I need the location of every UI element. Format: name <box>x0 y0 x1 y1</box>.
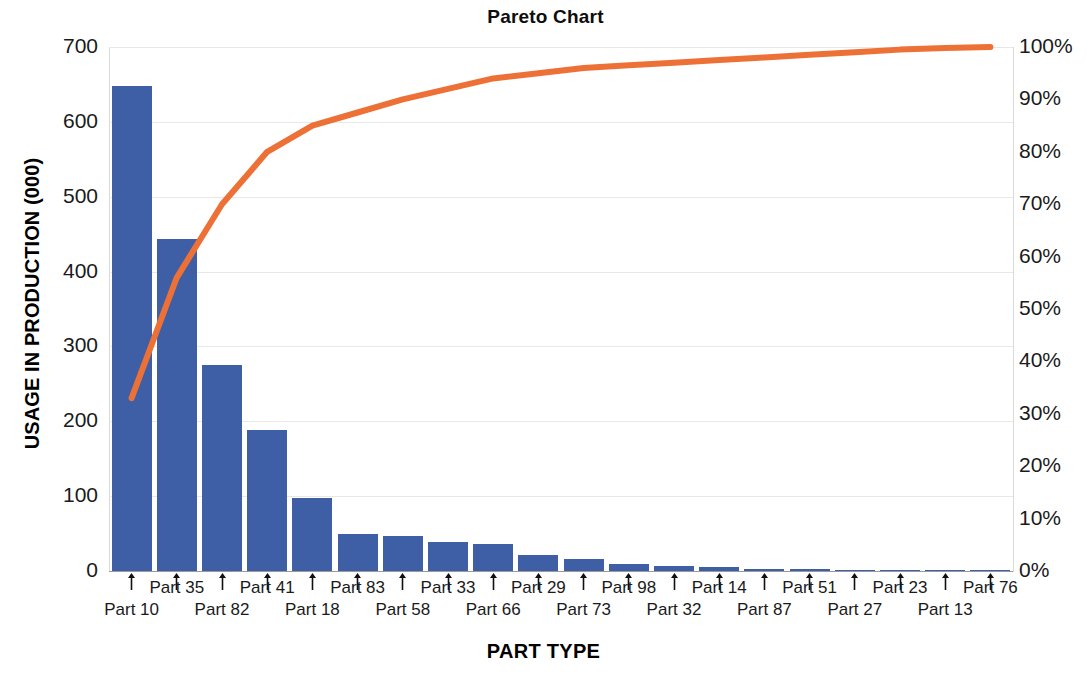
chart-title-text: Pareto Chart <box>487 6 603 27</box>
y-axis-right-tick-label: 100% <box>1019 34 1087 58</box>
y-axis-right-tick-label: 40% <box>1019 348 1087 372</box>
y-axis-left-tick-label: 400 <box>8 259 98 283</box>
y-axis-left-tick-label: 700 <box>8 34 98 58</box>
x-axis-category-label: Part 13 <box>903 600 987 620</box>
y-axis-right-tick-label: 50% <box>1019 296 1087 320</box>
y-axis-right-tick-label: 70% <box>1019 191 1087 215</box>
y-axis-left-tick-label: 100 <box>8 483 98 507</box>
y-axis-right-tick-label: 90% <box>1019 86 1087 110</box>
y-axis-left-tick-label: 500 <box>8 184 98 208</box>
cumulative-line <box>132 47 991 398</box>
y-axis-right-tick-label: 80% <box>1019 139 1087 163</box>
y-axis-right-tick-label: 30% <box>1019 401 1087 425</box>
x-axis-category-label: Part 18 <box>270 600 354 620</box>
x-axis-category-label: Part 27 <box>813 600 897 620</box>
cumulative-line-series <box>109 47 1013 571</box>
x-axis-category-label: Part 83 <box>316 578 400 598</box>
y-axis-right-spine <box>1013 47 1014 572</box>
x-axis-category-label: Part 98 <box>587 578 671 598</box>
chart-title: Pareto Chart <box>0 6 1087 28</box>
x-axis-line <box>109 571 1013 572</box>
x-axis-title: PART TYPE <box>0 640 1087 663</box>
y-axis-left-tick-label: 0 <box>8 558 98 582</box>
x-axis-category-label: Part 33 <box>406 578 490 598</box>
x-axis-category-label: Part 23 <box>858 578 942 598</box>
x-axis-category-label: Part 82 <box>180 600 264 620</box>
x-axis-category-label: Part 51 <box>768 578 852 598</box>
y-axis-right-tick-label: 20% <box>1019 453 1087 477</box>
x-axis-category-label: Part 32 <box>632 600 716 620</box>
y-axis-right-tick-label: 60% <box>1019 244 1087 268</box>
plot-area <box>109 47 1013 571</box>
x-axis-category-label: Part 76 <box>948 578 1032 598</box>
y-axis-left-tick-label: 600 <box>8 109 98 133</box>
x-axis-category-label: Part 66 <box>451 600 535 620</box>
x-axis-category-label: Part 29 <box>496 578 580 598</box>
pareto-chart: Pareto Chart USAGE IN PRODUCTION (000) P… <box>0 0 1087 688</box>
x-axis-category-label: Part 73 <box>542 600 626 620</box>
x-axis-category-label: Part 87 <box>722 600 806 620</box>
y-axis-left-tick-label: 200 <box>8 408 98 432</box>
x-axis-category-label: Part 14 <box>677 578 761 598</box>
x-axis-category-label: Part 10 <box>90 600 174 620</box>
x-axis-category-label: Part 58 <box>361 600 445 620</box>
x-axis-category-label: Part 35 <box>135 578 219 598</box>
y-axis-right-tick-label: 10% <box>1019 506 1087 530</box>
y-axis-left-tick-label: 300 <box>8 333 98 357</box>
x-axis-category-label: Part 41 <box>225 578 309 598</box>
